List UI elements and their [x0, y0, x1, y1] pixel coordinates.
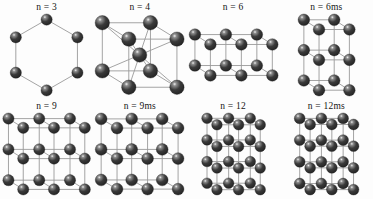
- atom-sphere: [3, 175, 14, 186]
- atom-group: [189, 29, 278, 81]
- atom-sphere: [251, 60, 263, 72]
- atom-sphere: [189, 60, 201, 72]
- atom-sphere: [220, 29, 232, 41]
- atom-group: [95, 16, 184, 95]
- atom-sphere: [223, 135, 234, 146]
- atom-sphere: [157, 174, 169, 186]
- atom-sphere: [304, 184, 315, 195]
- atom-sphere: [95, 64, 109, 78]
- atom-sphere: [122, 80, 136, 94]
- atom-sphere: [220, 60, 232, 72]
- atom-sphere: [326, 141, 337, 152]
- atom-sphere: [266, 70, 278, 82]
- atom-sphere: [233, 119, 244, 130]
- atom-sphere: [337, 178, 348, 189]
- atom-sphere: [244, 135, 255, 146]
- atom-sphere: [172, 183, 184, 195]
- atom-sphere: [235, 70, 247, 82]
- cluster-diagram-n3: [0, 12, 93, 98]
- atom-sphere: [348, 162, 359, 173]
- atom-sphere: [204, 39, 216, 51]
- atom-sphere: [313, 84, 325, 96]
- atom-sphere: [133, 48, 147, 62]
- atom-group: [298, 14, 355, 96]
- atom-sphere: [34, 113, 45, 124]
- atom-sphere: [337, 113, 348, 124]
- atom-sphere: [254, 163, 265, 174]
- atom-sphere: [111, 122, 123, 134]
- atom-sphere: [126, 174, 138, 186]
- cluster-cell-n12ms: n = 12ms: [280, 99, 373, 198]
- atom-sphere: [10, 32, 21, 43]
- atom-sphere: [96, 174, 108, 186]
- atom-sphere: [304, 119, 315, 130]
- atom-sphere: [337, 135, 348, 146]
- cluster-cell-n12: n = 12: [187, 99, 280, 198]
- atom-sphere: [64, 113, 75, 124]
- atom-sphere: [298, 14, 310, 26]
- atom-sphere: [343, 54, 355, 66]
- atom-sphere: [343, 84, 355, 96]
- cluster-cell-n9ms: n = 9ms: [93, 99, 186, 198]
- atom-sphere: [294, 135, 305, 146]
- atom-sphere: [126, 144, 138, 156]
- atom-sphere: [64, 144, 75, 155]
- atom-sphere: [244, 156, 255, 167]
- atom-sphere: [211, 141, 222, 152]
- cluster-diagram-n9ms: [93, 111, 186, 197]
- atom-sphere: [157, 113, 169, 125]
- cluster-cell-n3: n = 3: [0, 0, 93, 99]
- atom-sphere: [96, 144, 108, 156]
- atom-sphere: [189, 29, 201, 41]
- atom-sphere: [142, 153, 154, 165]
- figure-row-top: n = 3 n = 4 n = 6 n = 6ms: [0, 0, 373, 99]
- atom-sphere: [294, 113, 305, 124]
- cluster-diagram-n9: [0, 111, 93, 197]
- atom-sphere: [211, 119, 222, 130]
- atom-sphere: [144, 16, 158, 30]
- atom-sphere: [64, 175, 75, 186]
- atom-group: [294, 113, 359, 195]
- cluster-diagram-n12ms: [280, 111, 373, 197]
- cluster-diagram-n6: [187, 12, 280, 98]
- atom-sphere: [18, 153, 29, 164]
- atom-sphere: [348, 141, 359, 152]
- atom-sphere: [316, 135, 327, 146]
- atom-sphere: [304, 141, 315, 152]
- atom-group: [10, 14, 83, 96]
- atom-sphere: [294, 178, 305, 189]
- atom-sphere: [201, 135, 212, 146]
- atom-sphere: [3, 144, 14, 155]
- atom-sphere: [294, 156, 305, 167]
- atom-sphere: [316, 156, 327, 167]
- atom-sphere: [298, 75, 310, 87]
- atom-sphere: [122, 32, 136, 46]
- atom-sphere: [18, 122, 29, 133]
- atom-sphere: [254, 119, 265, 130]
- atom-sphere: [48, 184, 59, 195]
- atom-sphere: [72, 32, 83, 43]
- atom-sphere: [157, 144, 169, 156]
- atom-sphere: [170, 80, 184, 94]
- atom-sphere: [172, 122, 184, 134]
- atom-sphere: [48, 122, 59, 133]
- atom-group: [201, 113, 265, 195]
- cluster-cell-n6ms: n = 6ms: [280, 0, 373, 99]
- atom-sphere: [266, 39, 278, 51]
- atom-sphere: [316, 178, 327, 189]
- atom-sphere: [223, 178, 234, 189]
- atom-sphere: [254, 141, 265, 152]
- atom-sphere: [304, 162, 315, 173]
- cluster-cell-n4: n = 4: [93, 0, 186, 99]
- atom-sphere: [142, 183, 154, 195]
- atom-sphere: [3, 113, 14, 124]
- atom-sphere: [144, 64, 158, 78]
- atom-sphere: [204, 70, 216, 82]
- atom-sphere: [233, 141, 244, 152]
- atom-sphere: [48, 153, 59, 164]
- atom-sphere: [343, 24, 355, 36]
- cluster-diagram-n6ms: [280, 12, 373, 98]
- atom-sphere: [298, 44, 310, 56]
- atom-sphere: [170, 32, 184, 46]
- cluster-cell-n9: n = 9: [0, 99, 93, 198]
